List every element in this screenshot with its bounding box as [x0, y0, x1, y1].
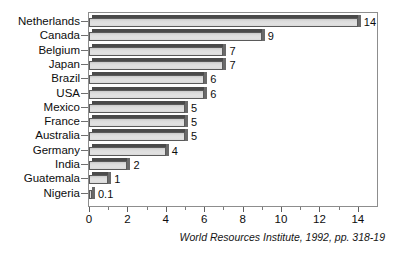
bar-value-label: 5 — [191, 130, 197, 142]
y-axis-tick — [81, 35, 88, 36]
x-axis-tick-major — [127, 207, 128, 212]
bar-value-label: 5 — [191, 116, 197, 128]
y-axis-label-nigeria: Nigeria — [44, 187, 80, 199]
y-axis-label-australia: Australia — [35, 129, 80, 141]
bar-value-label: 7 — [229, 59, 235, 71]
x-axis-label-8: 8 — [239, 213, 245, 226]
bar-brazil: 6 — [89, 72, 208, 85]
bar-front-face — [89, 90, 204, 99]
bar-canada: 9 — [89, 29, 266, 42]
x-axis-tick-minor — [185, 207, 186, 210]
y-axis-tick — [81, 107, 88, 108]
bar-front-face — [89, 47, 223, 56]
bar-front-face — [89, 61, 223, 70]
bar-side-face — [127, 158, 130, 170]
y-axis-tick — [81, 150, 88, 151]
bar-india: 2 — [89, 158, 131, 171]
y-axis-label-belgium: Belgium — [38, 44, 80, 56]
bar-japan: 7 — [89, 58, 227, 71]
bar-france: 5 — [89, 115, 189, 128]
x-axis-tick-minor — [147, 207, 148, 210]
x-axis-tick-major — [166, 207, 167, 212]
bar-value-label: 2 — [133, 159, 139, 171]
x-axis-tick-minor — [300, 207, 301, 210]
bar-chart: NetherlandsCanadaBelgiumJapanBrazilUSAMe… — [0, 0, 394, 256]
y-axis-label-japan: Japan — [49, 58, 80, 70]
bar-value-label: 14 — [364, 16, 376, 28]
bar-nigeria: 0.1 — [89, 187, 96, 200]
bar-usa: 6 — [89, 87, 208, 100]
bar-value-label: 6 — [210, 73, 216, 85]
bar-side-face — [223, 58, 226, 70]
bar-mexico: 5 — [89, 101, 189, 114]
y-axis-tick — [81, 121, 88, 122]
y-axis-label-germany: Germany — [33, 144, 80, 156]
bar-side-face — [204, 87, 207, 99]
y-axis-tick — [81, 193, 88, 194]
bar-value-label: 1 — [114, 173, 120, 185]
bar-side-face — [185, 101, 188, 113]
y-axis-label-usa: USA — [56, 87, 80, 99]
y-axis-label-canada: Canada — [40, 29, 80, 41]
x-axis-tick-major — [243, 207, 244, 212]
bar-belgium: 7 — [89, 44, 227, 57]
bar-side-face — [262, 29, 265, 41]
x-axis-tick-major — [358, 207, 359, 212]
bar-value-label: 7 — [229, 45, 235, 57]
x-axis-tick-major — [204, 207, 205, 212]
bar-value-label: 6 — [210, 88, 216, 100]
x-axis-tick-major — [89, 207, 90, 212]
y-axis-tick — [81, 64, 88, 65]
y-axis-tick — [81, 164, 88, 165]
bar-front-face — [89, 104, 185, 113]
x-axis-label-2: 2 — [124, 213, 130, 226]
y-axis-label-brazil: Brazil — [51, 72, 80, 84]
y-axis-tick — [81, 78, 88, 79]
bar-value-label: 0.1 — [98, 188, 113, 200]
bar-australia: 5 — [89, 129, 189, 142]
bar-front-face — [89, 132, 185, 141]
bar-side-face — [358, 15, 361, 27]
bar-value-label: 4 — [172, 145, 178, 157]
bar-netherlands: 14 — [89, 15, 362, 28]
y-axis-label-india: India — [55, 158, 80, 170]
bar-front-face — [89, 18, 358, 27]
x-axis-tick-major — [281, 207, 282, 212]
y-axis-tick — [81, 21, 88, 22]
x-axis-tick-minor — [108, 207, 109, 210]
bar-value-label: 9 — [268, 30, 274, 42]
y-axis-label-guatemala: Guatemala — [24, 172, 80, 184]
bar-front-face — [89, 32, 262, 41]
bar-front-face — [89, 175, 108, 184]
bar-front-face — [89, 161, 127, 170]
bar-side-face — [92, 187, 95, 199]
y-axis-tick — [81, 135, 88, 136]
y-axis-tick — [81, 93, 88, 94]
source-citation: World Resources Institute, 1992, pp. 318… — [0, 231, 385, 243]
x-axis-label-12: 12 — [313, 213, 326, 226]
y-axis-label-france: France — [44, 115, 80, 127]
bars-layer: 14977665554210.1 — [89, 13, 377, 206]
x-axis-tick-minor — [262, 207, 263, 210]
bar-germany: 4 — [89, 144, 170, 157]
bar-front-face — [89, 118, 185, 127]
y-axis-category-labels: NetherlandsCanadaBelgiumJapanBrazilUSAMe… — [0, 12, 80, 192]
x-axis-label-14: 14 — [351, 213, 364, 226]
bar-side-face — [223, 44, 226, 56]
bar-front-face — [89, 147, 166, 156]
x-axis-label-6: 6 — [201, 213, 207, 226]
bar-side-face — [166, 144, 169, 156]
x-axis-tick-minor — [223, 207, 224, 210]
bar-front-face — [89, 75, 204, 84]
x-axis-label-10: 10 — [275, 213, 288, 226]
y-axis-label-mexico: Mexico — [44, 101, 80, 113]
x-axis-tick-minor — [339, 207, 340, 210]
bar-side-face — [185, 129, 188, 141]
x-axis-tick-major — [319, 207, 320, 212]
x-axis-label-4: 4 — [163, 213, 169, 226]
x-axis-label-0: 0 — [86, 213, 92, 226]
bar-side-face — [185, 115, 188, 127]
bar-side-face — [204, 72, 207, 84]
y-axis-tick — [81, 178, 88, 179]
y-axis-tick — [81, 50, 88, 51]
